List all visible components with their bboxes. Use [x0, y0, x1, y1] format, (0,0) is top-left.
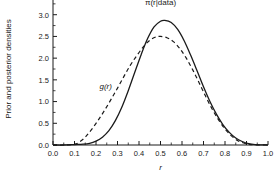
y-tick-label: 0.5 — [39, 119, 49, 128]
x-tick-label: 0.5 — [155, 149, 165, 158]
y-axis-major-ticks — [53, 0, 57, 145]
y-tick-label: 1.0 — [39, 97, 49, 106]
x-tick-label: 0.0 — [48, 149, 58, 158]
x-tick-label: 0.9 — [241, 149, 251, 158]
y-tick-label: 3.0 — [39, 11, 49, 20]
x-tick-label: 0.3 — [112, 149, 122, 158]
prior-curve-label: g(r) — [99, 82, 112, 91]
x-axis-tick-labels: 0.00.10.20.30.40.50.60.70.80.91.0 — [48, 149, 273, 158]
chart-figure: 0.00.10.20.30.40.50.60.70.80.91.0 0.00.5… — [0, 0, 275, 176]
y-tick-label: 2.0 — [39, 54, 49, 63]
x-tick-label: 0.2 — [91, 149, 101, 158]
y-tick-label: 0.0 — [39, 141, 49, 150]
y-axis-title: Prior and posterior densities — [4, 19, 13, 119]
posterior-curve-label: π(r|data) — [145, 0, 176, 7]
x-tick-label: 0.7 — [198, 149, 208, 158]
prior-posterior-density-plot: 0.00.10.20.30.40.50.60.70.80.91.0 0.00.5… — [0, 0, 275, 176]
posterior-density-curve — [53, 20, 268, 145]
x-tick-label: 0.8 — [220, 149, 230, 158]
y-axis-tick-labels: 0.00.51.01.52.02.53.03.5 — [39, 0, 49, 150]
x-tick-label: 0.4 — [134, 149, 144, 158]
y-tick-label: 2.5 — [39, 32, 49, 41]
x-tick-label: 0.1 — [69, 149, 79, 158]
y-tick-label: 1.5 — [39, 76, 49, 85]
x-axis-title: r — [159, 163, 162, 172]
x-tick-label: 0.6 — [177, 149, 187, 158]
x-tick-label: 1.0 — [263, 149, 273, 158]
prior-density-curve — [53, 36, 268, 145]
